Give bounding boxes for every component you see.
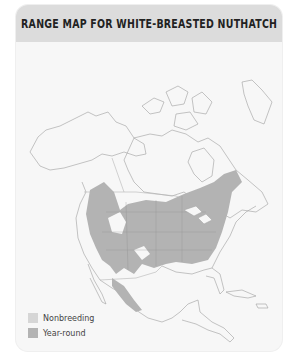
card-header: RANGE MAP FOR WHITE-BREASTED NUTHATCH bbox=[16, 5, 282, 42]
legend-item-nonbreeding: Nonbreeding bbox=[28, 311, 94, 325]
year-round-swatch bbox=[28, 328, 38, 338]
range-map bbox=[16, 42, 282, 351]
legend: Nonbreeding Year-round bbox=[28, 311, 94, 341]
legend-label: Nonbreeding bbox=[43, 314, 94, 323]
map-title: RANGE MAP FOR WHITE-BREASTED NUTHATCH bbox=[21, 17, 277, 31]
legend-item-year-round: Year-round bbox=[28, 326, 94, 340]
nonbreeding-swatch bbox=[28, 313, 38, 323]
range-map-card: RANGE MAP FOR WHITE-BREASTED NUTHATCH bbox=[16, 5, 282, 351]
legend-label: Year-round bbox=[43, 329, 86, 338]
